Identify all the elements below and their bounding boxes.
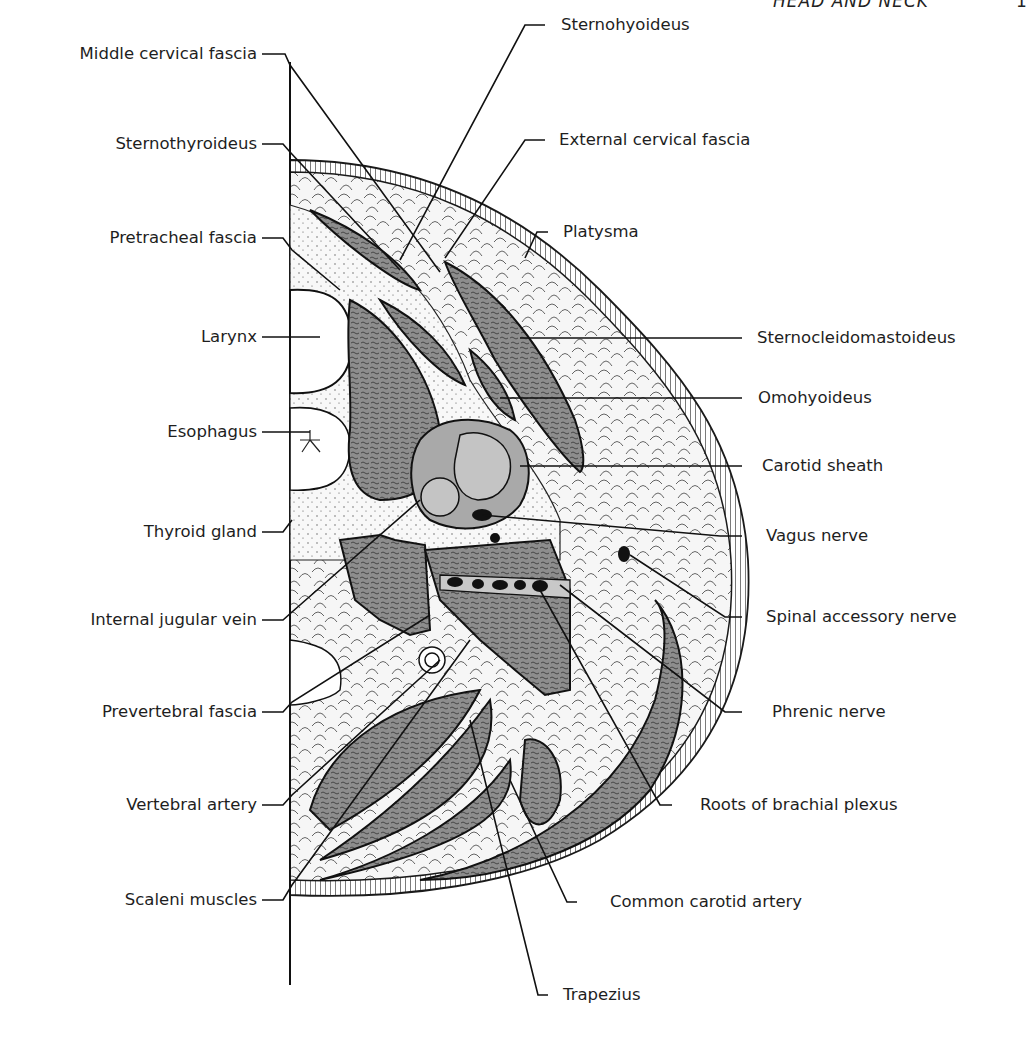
label-vagus-nerve: Vagus nerve — [766, 526, 868, 546]
label-pretracheal-fascia: Pretracheal fascia — [109, 228, 257, 248]
label-trapezius: Trapezius — [563, 985, 640, 1005]
label-omohyoideus: Omohyoideus — [758, 388, 872, 408]
label-platysma: Platysma — [563, 222, 639, 242]
label-scaleni-muscles: Scaleni muscles — [125, 890, 257, 910]
label-esophagus: Esophagus — [167, 422, 257, 442]
label-sternohyoideus: Sternohyoideus — [561, 15, 690, 35]
label-prevertebral-fascia: Prevertebral fascia — [102, 702, 257, 722]
label-larynx: Larynx — [201, 327, 257, 347]
label-thyroid-gland: Thyroid gland — [144, 522, 257, 542]
label-vertebral-artery: Vertebral artery — [126, 795, 257, 815]
common-carotid-artery-shape — [421, 478, 459, 516]
label-carotid-sheath: Carotid sheath — [762, 456, 883, 476]
label-external-cervical-fascia: External cervical fascia — [559, 130, 750, 150]
label-internal-jugular-vein: Internal jugular vein — [91, 610, 258, 630]
label-common-carotid-artery: Common carotid artery — [610, 892, 802, 912]
label-phrenic-nerve: Phrenic nerve — [772, 702, 886, 722]
label-spinal-accessory-nerve: Spinal accessory nerve — [766, 607, 957, 627]
label-roots-of-brachial-plexus: Roots of brachial plexus — [700, 795, 898, 815]
spinal-accessory-nerve-dot — [618, 546, 630, 562]
label-middle-cervical-fascia: Middle cervical fascia — [80, 44, 257, 64]
label-sternothyroideus: Sternothyroideus — [115, 134, 257, 154]
label-sternocleidomastoideus: Sternocleidomastoideus — [757, 328, 956, 348]
